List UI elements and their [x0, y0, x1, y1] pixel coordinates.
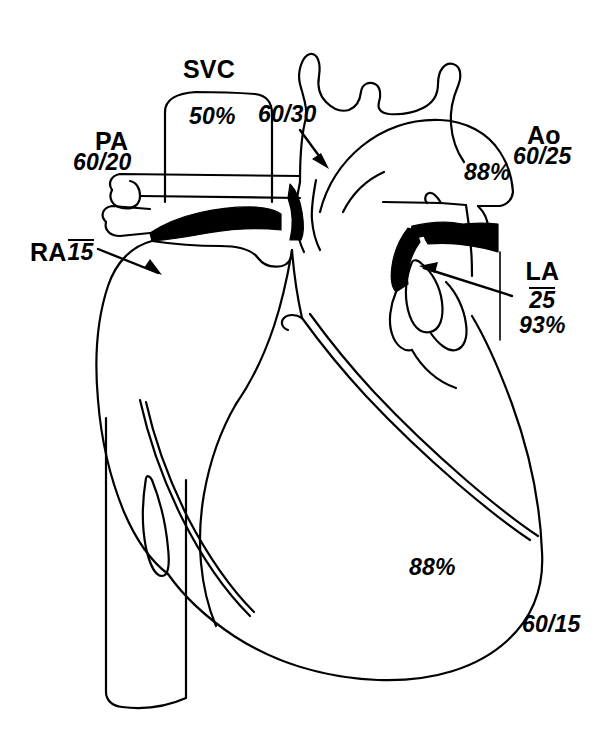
pulmonary-root-valve-fill	[288, 184, 303, 240]
groove-notch-upper	[282, 315, 302, 330]
ra-annotation-group: RA 15	[30, 239, 94, 265]
ao-saturation-value: 88%	[464, 161, 511, 185]
rv-anterior-wall-inner	[146, 402, 254, 612]
lad-groove-inner	[310, 314, 538, 536]
la-appendage-outer	[390, 292, 412, 350]
ra-mean-pressure-value: 15	[68, 239, 94, 264]
pa-pressure-value: 60/20	[73, 151, 132, 175]
ascending-aorta-right-wall	[478, 192, 513, 206]
svc-label: SVC	[183, 56, 235, 82]
right-atrium-outline	[96, 241, 168, 574]
la-saturation-value: 93%	[519, 314, 566, 338]
lv-saturation-value: 88%	[409, 556, 456, 580]
ra-rv-border	[292, 250, 302, 318]
heart-body-right-outline	[472, 316, 542, 552]
pa-branch-arrow	[300, 130, 329, 169]
ra-label: RA	[30, 239, 67, 265]
aorta-underside-notch	[425, 193, 441, 203]
aorta-underside	[383, 202, 466, 205]
pa-branch-pressure-value: 60/30	[258, 103, 317, 127]
svc-saturation-value: 50%	[189, 105, 236, 129]
ao-pressure-value: 60/25	[513, 145, 572, 169]
la-appendage-lobe2	[430, 282, 467, 350]
heart-diagram-figure: SVC 50% PA 60/20 60/30 Ao 60/25 88% RA 1…	[0, 0, 607, 736]
lv-mass-arc	[200, 404, 236, 626]
la-annotation-group: LA 25 93%	[519, 258, 566, 338]
aortic-arch-dome-lower	[343, 172, 384, 212]
la-arrow	[419, 262, 512, 296]
heart-body-left-outline	[168, 552, 542, 680]
pa-descending-limb-inner	[312, 180, 320, 250]
la-label: LA	[525, 258, 559, 284]
pulmonic-valve-fill	[150, 207, 281, 241]
right-atrium-roof	[152, 241, 292, 267]
pa-trunk-lower-loop	[110, 181, 140, 208]
la-lower-wall	[412, 350, 456, 388]
rv-pocket	[143, 476, 169, 576]
rv-anterior-wall-outer	[140, 400, 250, 616]
la-mean-pressure-value: 25	[529, 287, 555, 312]
lad-groove-outer	[302, 318, 530, 540]
lv-pressure-value: 60/15	[522, 613, 581, 637]
ivc-tube-bottom	[122, 698, 186, 708]
pa-second-branch-lower	[106, 222, 150, 236]
